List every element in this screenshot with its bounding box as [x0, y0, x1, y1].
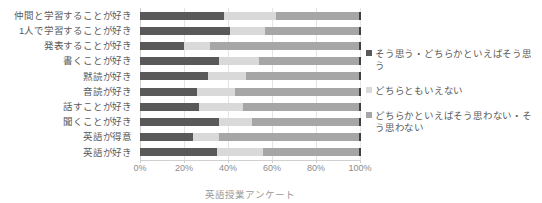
bar-segment [140, 57, 219, 65]
bar-row [140, 145, 360, 160]
category-label: 発表することが好き [0, 38, 136, 53]
legend-label: どちらともいえない [375, 85, 463, 97]
bar-segment [219, 133, 360, 141]
bar-segment [219, 57, 259, 65]
bar-endcap [359, 118, 361, 126]
bar-segment [252, 118, 360, 126]
bar-endcap [359, 12, 361, 20]
category-label: 音読が好き [0, 84, 136, 99]
bar-row [140, 84, 360, 99]
bar-row [140, 8, 360, 23]
stacked-bar [140, 148, 360, 156]
stacked-bar [140, 42, 360, 50]
axis-tick-label: 40% [219, 164, 237, 173]
plot-area [140, 8, 360, 160]
bar-row [140, 130, 360, 145]
value-axis: 0%20%40%60%80%100% [140, 160, 360, 176]
bar-segment [140, 88, 197, 96]
bar-segment [184, 42, 210, 50]
category-axis: 仲間と学習することが好き1人で学習することが好き発表することが好き書くことが好き… [0, 8, 136, 160]
bar-row [140, 54, 360, 69]
bar-endcap [359, 72, 361, 80]
bar-segment [140, 133, 193, 141]
category-label: 黙読が好き [0, 69, 136, 84]
bar-segment [197, 88, 234, 96]
bar-segment [140, 27, 230, 35]
axis-tick-label: 100% [348, 164, 371, 173]
bar-segment [235, 88, 360, 96]
stacked-bar [140, 88, 360, 96]
bar-endcap [359, 57, 361, 65]
stacked-bar [140, 12, 360, 20]
stacked-bar [140, 57, 360, 65]
value-axis-line [140, 160, 360, 161]
bar-segment [243, 103, 360, 111]
legend-item[interactable]: どちらかといえばそう思わない・そう思わない [366, 110, 542, 134]
bar-row [140, 23, 360, 38]
category-label: 仲間と学習することが好き [0, 8, 136, 23]
bar-segment [263, 148, 360, 156]
legend-label: そう思う・どちらかといえばそう思う [375, 48, 535, 72]
category-label: 聞くことが好き [0, 114, 136, 129]
bar-segment [140, 72, 208, 80]
bar-segment [208, 72, 245, 80]
bar-segment [199, 103, 243, 111]
bar-segment [140, 118, 219, 126]
legend-item[interactable]: そう思う・どちらかといえばそう思う [366, 48, 542, 72]
axis-title: 英語授業アンケート [140, 190, 360, 200]
stacked-bar [140, 133, 360, 141]
bar-endcap [359, 88, 361, 96]
bar-endcap [359, 42, 361, 50]
bar-segment [224, 12, 277, 20]
legend-swatch-icon [366, 50, 372, 56]
category-label: 話すことが好き [0, 99, 136, 114]
bar-row [140, 69, 360, 84]
bar-endcap [359, 148, 361, 156]
bar-segment [140, 42, 184, 50]
bar-segment [246, 72, 360, 80]
bar-row [140, 99, 360, 114]
axis-tick-label: 0% [133, 164, 146, 173]
legend-item[interactable]: どちらともいえない [366, 85, 542, 97]
chart-legend: そう思う・どちらかといえばそう思うどちらともいえないどちらかといえばそう思わない… [366, 48, 542, 147]
legend-swatch-icon [366, 87, 372, 93]
category-label: 書くことが好き [0, 54, 136, 69]
bar-segment [230, 27, 265, 35]
stacked-bar [140, 118, 360, 126]
bar-endcap [359, 133, 361, 141]
bar-segment [219, 118, 252, 126]
stacked-bar [140, 72, 360, 80]
bar-segment [259, 57, 360, 65]
bar-row [140, 38, 360, 53]
bar-segment [265, 27, 360, 35]
bar-endcap [359, 103, 361, 111]
category-label: 英語が好き [0, 145, 136, 160]
bar-series-group [140, 8, 360, 160]
bar-endcap [359, 27, 361, 35]
bar-segment [140, 103, 199, 111]
stacked-bar-chart: 仲間と学習することが好き1人で学習することが好き発表することが好き書くことが好き… [0, 0, 542, 203]
stacked-bar [140, 103, 360, 111]
bar-row [140, 114, 360, 129]
bar-segment [140, 12, 224, 20]
bar-segment [217, 148, 263, 156]
axis-tick-label: 20% [175, 164, 193, 173]
axis-tick-label: 80% [307, 164, 325, 173]
legend-swatch-icon [366, 112, 372, 118]
axis-tick-label: 60% [263, 164, 281, 173]
bar-segment [193, 133, 219, 141]
bar-segment [210, 42, 360, 50]
bar-segment [276, 12, 360, 20]
category-label: 英語が得意 [0, 130, 136, 145]
legend-label: どちらかといえばそう思わない・そう思わない [375, 110, 535, 134]
bar-segment [140, 148, 217, 156]
stacked-bar [140, 27, 360, 35]
category-label: 1人で学習することが好き [0, 23, 136, 38]
